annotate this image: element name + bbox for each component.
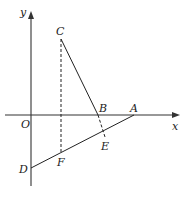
point-label-D: D (18, 163, 28, 176)
segment-DA (31, 115, 134, 168)
segment-BE (98, 115, 105, 137)
point-label-B: B (98, 102, 107, 115)
point-label-E: E (100, 140, 109, 153)
y-axis-label: y (19, 6, 27, 19)
point-label-O: O (21, 118, 30, 131)
point-label-C: C (56, 25, 65, 38)
segment-CB (61, 39, 98, 115)
point-label-A: A (129, 102, 138, 115)
geometry-diagram: y x O C B A E F D (0, 0, 186, 197)
point-label-F: F (56, 156, 65, 169)
x-axis-arrow-icon (172, 112, 180, 118)
y-axis-arrow-icon (28, 11, 34, 19)
x-axis-label: x (172, 120, 179, 133)
